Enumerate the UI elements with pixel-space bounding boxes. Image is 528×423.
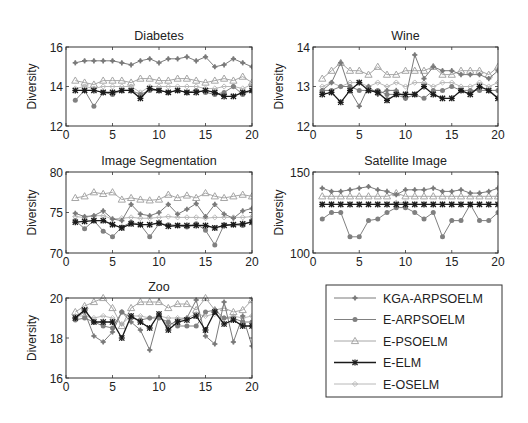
x-tick-label: 10 (152, 128, 166, 142)
x-tick-label: 5 (356, 255, 363, 269)
y-axis-label: Diversity (272, 63, 286, 109)
x-tick-label: 0 (63, 380, 70, 394)
legend-label: E-ELM (383, 356, 421, 370)
x-tick-label: 15 (199, 128, 213, 142)
x-tick-label: 15 (445, 128, 459, 142)
plot-area (72, 294, 256, 352)
series-kga-arpsoelm (73, 54, 255, 69)
subplot-diabetes: DiabetesDiversity05101520121416 (25, 29, 259, 142)
x-tick-label: 5 (109, 380, 116, 394)
legend-label: KGA-ARPSOELM (383, 292, 483, 306)
y-axis-label: Diversity (25, 315, 39, 361)
subplot-satellite-image: Satellite ImageDiversity05101520100150 (272, 154, 505, 269)
x-tick-label: 20 (245, 380, 259, 394)
subplot-title: Diabetes (134, 29, 183, 43)
subplot-title: Wine (391, 29, 420, 43)
plot-area (319, 184, 502, 239)
x-tick-label: 5 (109, 255, 116, 269)
y-tick-label: 70 (50, 247, 64, 261)
series-e-elm (72, 85, 255, 101)
series-kga-arpsoelm (320, 52, 501, 109)
series-e-elm (319, 80, 501, 106)
y-tick-label: 75 (50, 206, 64, 220)
legend-label: E-ARPSOELM (383, 313, 465, 327)
y-axis-label: Diversity (272, 189, 286, 235)
series-e-elm (319, 201, 501, 207)
chart-canvas: DiabetesDiversity05101520121416WineDiver… (0, 0, 528, 423)
x-tick-label: 20 (245, 255, 259, 269)
x-tick-label: 15 (445, 255, 459, 269)
x-tick-label: 5 (356, 128, 363, 142)
series-e-arpsoelm (73, 218, 255, 247)
x-tick-label: 0 (63, 255, 70, 269)
x-tick-label: 0 (310, 128, 317, 142)
y-tick-label: 13 (297, 80, 311, 94)
y-tick-label: 80 (50, 166, 64, 180)
x-tick-label: 15 (199, 380, 213, 394)
x-tick-label: 20 (491, 255, 505, 269)
y-tick-label: 12 (50, 120, 64, 134)
subplot-title: Image Segmentation (101, 154, 216, 168)
x-tick-label: 0 (310, 255, 317, 269)
y-tick-label: 12 (297, 120, 311, 134)
x-tick-label: 10 (152, 255, 166, 269)
subplot-title: Satellite Image (364, 154, 447, 168)
y-tick-label: 16 (50, 41, 64, 55)
series-e-psoelm (72, 294, 256, 328)
figure: DiabetesDiversity05101520121416WineDiver… (0, 0, 528, 423)
x-tick-label: 0 (63, 128, 70, 142)
y-tick-label: 20 (50, 292, 64, 306)
series-e-psoelm (72, 73, 256, 87)
x-tick-label: 10 (152, 380, 166, 394)
x-tick-label: 10 (399, 128, 413, 142)
y-tick-label: 14 (50, 80, 64, 94)
subplot-title: Zoo (148, 280, 170, 294)
legend: KGA-ARPSOELME-ARPSOELME-PSOELME-ELME-OSE… (326, 285, 502, 397)
x-tick-label: 15 (199, 255, 213, 269)
subplot-wine: WineDiversity05101520121314 (272, 29, 505, 142)
y-tick-label: 14 (297, 41, 311, 55)
y-axis-label: Diversity (25, 189, 39, 235)
plot-area (72, 54, 256, 108)
series-e-oselm (320, 200, 501, 207)
series-e-oselm (73, 82, 255, 95)
subplot-image-segmentation: Image SegmentationDiversity0510152070758… (25, 154, 259, 269)
plot-area (72, 189, 256, 248)
x-tick-label: 5 (109, 128, 116, 142)
plot-area (319, 52, 502, 109)
subplot-zoo: ZooDiversity05101520161820 (25, 280, 259, 394)
series-kga-arpsoelm (73, 201, 255, 223)
y-tick-label: 18 (50, 332, 64, 346)
series-e-psoelm (72, 189, 256, 203)
x-tick-label: 20 (491, 128, 505, 142)
series-e-arpsoelm (320, 202, 501, 239)
series-kga-arpsoelm (320, 184, 501, 197)
y-axis-label: Diversity (25, 63, 39, 109)
y-tick-label: 16 (50, 372, 64, 386)
y-tick-label: 150 (290, 166, 310, 180)
legend-label: E-PSOELM (383, 335, 448, 349)
legend-label: E-OSELM (383, 378, 439, 392)
y-tick-label: 100 (290, 247, 310, 261)
x-tick-label: 10 (399, 255, 413, 269)
x-tick-label: 20 (245, 128, 259, 142)
